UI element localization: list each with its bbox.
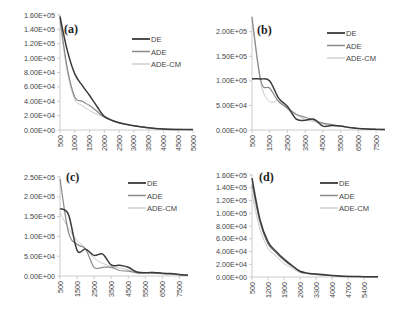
panel-label: (b) <box>257 23 272 37</box>
x-tick-label: 500 <box>56 135 65 147</box>
y-tick-label: 4.00E+04 <box>24 97 55 106</box>
y-tick-label: 2.00E+04 <box>216 260 247 269</box>
x-tick-label: 4000 <box>159 135 168 151</box>
x-tick-label: 5500 <box>336 135 345 151</box>
y-tick-label: 2.00E+05 <box>216 27 247 36</box>
series-line-ade <box>252 17 385 130</box>
x-tick-label: 1900 <box>280 282 289 298</box>
y-tick-label: 1.60E+05 <box>216 171 247 180</box>
panel-d: 0.00E+002.00E+044.00E+046.00E+048.00E+04… <box>216 170 378 298</box>
x-tick-label: 6500 <box>354 135 363 151</box>
y-tick-label: 1.40E+05 <box>24 25 55 34</box>
y-tick-label: 8.00E+04 <box>216 222 247 231</box>
y-tick-label: 1.20E+05 <box>24 39 55 48</box>
y-tick-label: 6.00E+04 <box>216 234 247 243</box>
series-line-de <box>252 79 385 130</box>
y-tick-label: 1.40E+05 <box>216 183 247 192</box>
x-tick-label: 6500 <box>158 281 167 297</box>
y-tick-label: 0.00E+00 <box>24 126 55 135</box>
series-line-de <box>252 178 378 277</box>
y-tick-label: 6.00E+04 <box>24 82 55 91</box>
legend-label: ADE-CM <box>147 204 177 213</box>
x-tick-label: 3500 <box>107 281 116 297</box>
x-tick-label: 2600 <box>296 282 305 298</box>
x-tick-label: 500 <box>56 281 65 293</box>
x-tick-label: 5500 <box>141 281 150 297</box>
y-tick-label: 5.00E+04 <box>24 252 55 261</box>
x-tick-label: 4500 <box>174 135 183 151</box>
x-tick-label: 3500 <box>144 135 153 151</box>
x-tick-label: 2000 <box>100 135 109 151</box>
y-tick-label: 1.50E+05 <box>216 52 247 61</box>
panel-label: (a) <box>64 22 78 36</box>
y-tick-label: 0.00E+00 <box>216 273 247 282</box>
x-tick-label: 2500 <box>90 281 99 297</box>
legend-label: ADE <box>339 192 355 201</box>
x-tick-label: 1000 <box>70 135 79 151</box>
x-tick-label: 3500 <box>301 135 310 151</box>
legend-label: DE <box>346 29 357 38</box>
x-tick-label: 1500 <box>265 135 274 151</box>
y-tick-label: 0.00E+00 <box>216 126 247 135</box>
legend-label: ADE-CM <box>346 54 376 63</box>
series-line-ade <box>60 19 193 130</box>
x-tick-label: 2500 <box>115 135 124 151</box>
panel-b: 0.00E+005.00E+041.00E+051.50E+052.00E+05… <box>216 16 385 151</box>
legend-label: DE <box>339 179 350 188</box>
panel-label: (d) <box>259 170 274 184</box>
legend-label: ADE-CM <box>151 60 181 69</box>
y-tick-label: 1.00E+05 <box>216 76 247 85</box>
y-tick-label: 8.00E+04 <box>24 68 55 77</box>
legend-label: ADE <box>147 192 163 201</box>
series-line-ade <box>252 185 378 277</box>
series-line-ade <box>60 179 188 275</box>
x-tick-label: 7500 <box>372 135 381 151</box>
legend-label: ADE-CM <box>339 204 369 213</box>
y-tick-label: 4.00E+04 <box>216 247 247 256</box>
series-line-de <box>60 16 193 129</box>
x-tick-label: 4500 <box>318 135 327 151</box>
x-tick-label: 500 <box>248 282 257 294</box>
x-tick-label: 3300 <box>312 282 321 298</box>
y-tick-label: 1.00E+05 <box>216 209 247 218</box>
legend-label: DE <box>151 35 162 44</box>
y-tick-label: 1.60E+05 <box>24 11 55 20</box>
x-tick-label: 1200 <box>264 282 273 298</box>
x-tick-label: 4500 <box>124 281 133 297</box>
legend-label: ADE <box>346 42 362 51</box>
x-tick-label: 4000 <box>328 282 337 298</box>
y-tick-label: 2.00E+04 <box>24 111 55 120</box>
x-tick-label: 5000 <box>189 135 198 151</box>
x-tick-label: 3000 <box>129 135 138 151</box>
x-tick-label: 2500 <box>283 135 292 151</box>
x-tick-label: 500 <box>248 135 257 147</box>
y-tick-label: 1.00E+05 <box>24 232 55 241</box>
series-line-ade-cm <box>252 20 385 130</box>
y-tick-label: 0.00E+00 <box>24 272 55 281</box>
x-tick-label: 5400 <box>360 282 369 298</box>
legend-label: ADE <box>151 48 167 57</box>
y-tick-label: 2.50E+05 <box>24 173 55 182</box>
y-tick-label: 1.00E+05 <box>24 54 55 63</box>
y-tick-label: 1.20E+05 <box>216 196 247 205</box>
figure-four-panel-line-charts: 0.00E+002.00E+044.00E+046.00E+048.00E+04… <box>0 0 398 316</box>
y-tick-label: 2.00E+05 <box>24 192 55 201</box>
series-line-ade-cm <box>60 22 193 129</box>
x-tick-label: 4700 <box>344 282 353 298</box>
x-tick-label: 1500 <box>85 135 94 151</box>
panel-label: (c) <box>66 170 79 184</box>
panel-c: 0.00E+005.00E+041.00E+051.50E+052.00E+05… <box>24 170 188 297</box>
y-tick-label: 5.00E+04 <box>216 101 247 110</box>
legend-label: DE <box>147 179 158 188</box>
x-tick-label: 7500 <box>175 281 184 297</box>
x-tick-label: 1500 <box>73 281 82 297</box>
y-tick-label: 1.50E+05 <box>24 212 55 221</box>
panel-a: 0.00E+002.00E+044.00E+046.00E+048.00E+04… <box>24 11 197 152</box>
